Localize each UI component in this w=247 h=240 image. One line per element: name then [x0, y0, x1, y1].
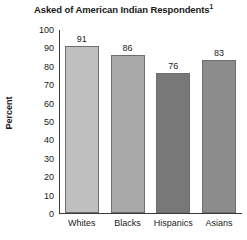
y-tick-label: 40	[14, 135, 54, 145]
y-tick-label: 70	[14, 80, 54, 90]
bar[interactable]	[202, 60, 236, 213]
y-axis-line	[59, 30, 60, 214]
bar-value-label: 83	[193, 48, 245, 58]
x-axis-line	[59, 213, 242, 214]
y-tick-label: 50	[14, 117, 54, 127]
bar-value-label: 86	[102, 43, 154, 53]
plot-area: 91867683	[59, 30, 242, 214]
y-tick-label: 10	[14, 191, 54, 201]
y-tick-label: 30	[14, 154, 54, 164]
chart-title-footnote-marker: 1	[210, 3, 214, 10]
bar[interactable]	[156, 73, 190, 213]
y-axis-title: Percent	[4, 83, 14, 143]
chart-title: Asked of American Indian Respondents1	[0, 4, 247, 15]
y-tick-label: 20	[14, 172, 54, 182]
y-tick-label: 100	[14, 25, 54, 35]
y-tick-label: 60	[14, 99, 54, 109]
bar[interactable]	[65, 46, 99, 213]
y-tick-label: 80	[14, 62, 54, 72]
chart-title-text: Asked of American Indian Respondents	[34, 4, 210, 15]
bar[interactable]	[111, 55, 145, 213]
bar-value-label: 91	[56, 34, 108, 44]
bar-chart: Asked of American Indian Respondents1 Pe…	[0, 0, 247, 240]
x-tick-label: Asians	[189, 218, 247, 228]
y-tick-label: 90	[14, 43, 54, 53]
bar-value-label: 76	[147, 61, 199, 71]
y-tick-label: 0	[14, 209, 54, 219]
